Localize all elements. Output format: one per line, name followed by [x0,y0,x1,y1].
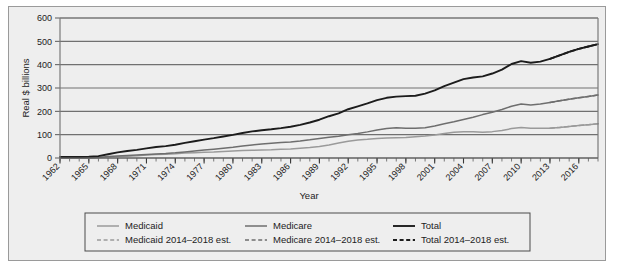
series-line [60,124,598,158]
x-tick-label: 2010 [501,161,522,182]
series-line [550,95,598,102]
x-tick-label: 1968 [98,161,119,182]
chart-frame: 0100200300400500600 19621965196819711974… [8,6,606,261]
x-axis-title: Year [299,190,318,201]
x-tick-label: 1962 [40,161,61,182]
y-axis-title: Real $ billions [20,58,31,117]
x-tick-label: 1974 [155,161,176,182]
x-tick-label: 1992 [328,161,349,182]
x-tick-label: 1995 [357,161,378,182]
legend-label: Medicare 2014–2018 est. [273,234,380,245]
x-tick-label: 1971 [127,161,148,182]
x-tick-label: 2004 [444,161,465,182]
x-tick-label: 1980 [213,161,234,182]
x-tick-label: 2007 [473,161,494,182]
y-tick-labels-group: 0100200300400500600 [37,13,52,163]
major-x-ticks-group [60,158,579,164]
line-chart: 0100200300400500600 19621965196819711974… [9,7,605,260]
chart-legend: MedicaidMedicareTotalMedicaid 2014–2018 … [85,213,530,251]
y-tick-label: 500 [37,37,52,47]
x-tick-label: 1965 [69,161,90,182]
y-tick-label: 400 [37,60,52,70]
x-tick-label: 1998 [386,161,407,182]
data-series-group [60,44,598,158]
y-tick-label: 100 [37,130,52,140]
x-tick-label: 2001 [415,161,436,182]
legend-label: Medicaid [125,220,163,231]
legend-label: Medicare [273,220,312,231]
x-tick-labels-group: 1962196519681971197419771980198319861989… [40,161,580,182]
legend-label: Medicaid 2014–2018 est. [125,234,231,245]
x-tick-label: 2013 [530,161,551,182]
series-line [60,44,598,157]
y-tick-marks-group [55,18,60,158]
chart-figure: 0100200300400500600 19621965196819711974… [0,0,618,271]
legend-label: Total 2014–2018 est. [421,234,509,245]
x-tick-label: 1977 [184,161,205,182]
y-tick-label: 0 [47,153,52,163]
y-tick-label: 200 [37,107,52,117]
y-tick-label: 600 [37,13,52,23]
legend-label: Total [421,220,441,231]
y-tick-label: 300 [37,83,52,93]
x-tick-label: 1986 [271,161,292,182]
x-tick-label: 1983 [242,161,263,182]
series-line [550,124,598,128]
x-tick-label: 1989 [300,161,321,182]
x-tick-label: 2016 [559,161,580,182]
